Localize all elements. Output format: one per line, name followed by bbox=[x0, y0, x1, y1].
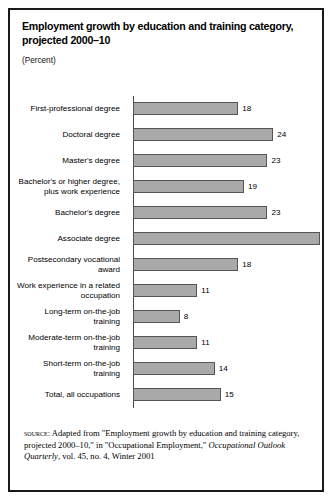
bar-category-label: Postsecondary vocationalaward bbox=[10, 252, 126, 278]
bar-category-label-line: Bachelor's or higher degree, bbox=[19, 177, 120, 187]
bar-category-label-line: Work experience in a related bbox=[17, 281, 120, 291]
bar-value-label: 14 bbox=[219, 362, 228, 375]
bar bbox=[133, 388, 221, 401]
bar-row: Work experience in a relatedoccupation11 bbox=[10, 278, 322, 304]
bar-category-label: Moderate-term on-the-jobtraining bbox=[10, 330, 126, 356]
bar-chart-plot-area: First-professional degree18Doctoral degr… bbox=[10, 96, 322, 416]
title-block: Employment growth by education and train… bbox=[22, 20, 310, 65]
bar-category-label-line: training bbox=[93, 343, 120, 353]
bar bbox=[133, 336, 197, 349]
bar bbox=[133, 180, 244, 193]
bar-value-label: 19 bbox=[248, 180, 257, 193]
bar-row: Associate degree32 bbox=[10, 226, 322, 252]
bar-category-label: Long-term on-the-jobtraining bbox=[10, 304, 126, 330]
bar-category-label-line: Total, all occupations bbox=[45, 390, 120, 400]
source-note: source: Adapted from "Employment growth … bbox=[24, 428, 302, 463]
bar-value-label: 11 bbox=[201, 284, 209, 297]
bar-value-label: 24 bbox=[277, 128, 286, 141]
bar-category-label-line: plus work experience bbox=[44, 187, 120, 197]
bar-row: Bachelor's degree23 bbox=[10, 200, 322, 226]
bar-category-label-line: training bbox=[93, 317, 120, 327]
bar-category-label: Bachelor's degree bbox=[10, 200, 126, 226]
bar-category-label-line: occupation bbox=[81, 291, 120, 301]
bar bbox=[133, 258, 238, 271]
bar bbox=[133, 284, 197, 297]
source-text-part-2: , vol. 45, no. 4, Winter 2001 bbox=[58, 451, 155, 461]
bar-row: Short-term on-the-jobtraining14 bbox=[10, 356, 322, 382]
bar-row: Postsecondary vocationalaward18 bbox=[10, 252, 322, 278]
bar-category-label-line: First-professional degree bbox=[30, 104, 120, 114]
bar-category-label-line: Moderate-term on-the-job bbox=[28, 333, 120, 343]
bar-row: First-professional degree18 bbox=[10, 96, 322, 122]
page-title: Employment growth by education and train… bbox=[22, 20, 296, 47]
bar-value-label: 15 bbox=[225, 388, 234, 401]
bar-row: Total, all occupations15 bbox=[10, 382, 322, 408]
bar-row: Moderate-term on-the-jobtraining11 bbox=[10, 330, 322, 356]
bar bbox=[133, 362, 215, 375]
bar-value-label: 18 bbox=[242, 102, 251, 115]
bar-row: Bachelor's or higher degree,plus work ex… bbox=[10, 174, 322, 200]
bar-category-label: First-professional degree bbox=[10, 96, 126, 122]
source-label: source: bbox=[24, 428, 50, 438]
bar-value-label: 18 bbox=[242, 258, 251, 271]
bar-value-label: 8 bbox=[184, 310, 189, 323]
bar-row: Long-term on-the-jobtraining8 bbox=[10, 304, 322, 330]
bar-category-label: Bachelor's or higher degree,plus work ex… bbox=[10, 174, 126, 200]
bar bbox=[133, 206, 267, 219]
bar-category-label-line: award bbox=[98, 265, 120, 275]
bar-category-label-line: Postsecondary vocational bbox=[28, 255, 120, 265]
bar-category-label-line: Master's degree bbox=[62, 156, 120, 166]
bar-value-label: 11 bbox=[201, 336, 209, 349]
bar bbox=[133, 310, 180, 323]
figure-container: Employment growth by education and train… bbox=[8, 8, 324, 492]
bar bbox=[133, 154, 267, 167]
bar-category-label: Short-term on-the-jobtraining bbox=[10, 356, 126, 382]
bar bbox=[133, 232, 320, 245]
bar bbox=[133, 128, 273, 141]
bar-category-label-line: Long-term on-the-job bbox=[44, 307, 120, 317]
bar-category-label: Work experience in a relatedoccupation bbox=[10, 278, 126, 304]
bar-category-label-line: Bachelor's degree bbox=[55, 208, 120, 218]
bar-row: Doctoral degree24 bbox=[10, 122, 322, 148]
bar-category-label-line: Short-term on-the-job bbox=[43, 359, 120, 369]
bar-value-label: 23 bbox=[271, 154, 280, 167]
bar-category-label-line: Doctoral degree bbox=[62, 130, 120, 140]
bar-category-label: Doctoral degree bbox=[10, 122, 126, 148]
bar bbox=[133, 102, 238, 115]
chart-units-subtitle: (Percent) bbox=[22, 47, 310, 65]
bar-category-label: Total, all occupations bbox=[10, 382, 126, 408]
bar-category-label: Master's degree bbox=[10, 148, 126, 174]
bar-category-label-line: training bbox=[93, 369, 120, 379]
bar-value-label: 23 bbox=[271, 206, 280, 219]
bar-row: Master's degree23 bbox=[10, 148, 322, 174]
bar-category-label-line: Associate degree bbox=[57, 234, 120, 244]
bar-category-label: Associate degree bbox=[10, 226, 126, 252]
